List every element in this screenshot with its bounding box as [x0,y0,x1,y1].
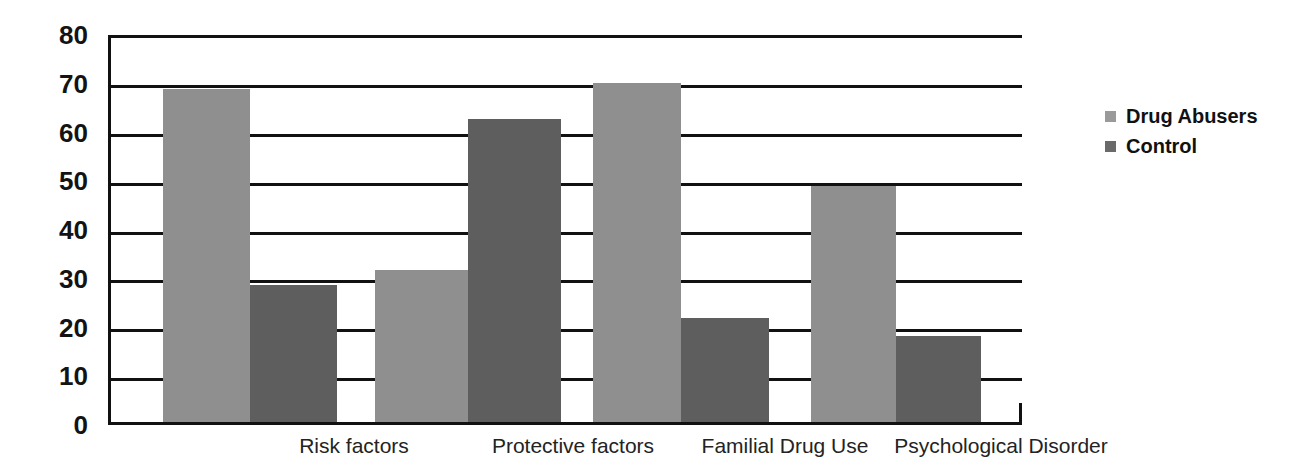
bar-psychological-disorder-drug-abusers [811,186,896,422]
legend-item-control: Control [1105,133,1258,160]
y-tick-label-50: 50 [18,168,88,194]
legend-swatch-drug-abusers-icon [1105,111,1116,122]
bar-risk-factors-drug-abusers [163,89,250,422]
y-tick-label-80: 80 [18,22,88,48]
plot-area [108,35,1022,425]
y-tick-label-30: 30 [18,266,88,292]
gridline-70 [111,85,1022,88]
bar-psychological-disorder-control [896,336,981,422]
bar-familial-drug-use-control [681,318,769,422]
legend-label-drug-abusers: Drug Abusers [1126,105,1258,128]
legend: Drug Abusers Control [1105,103,1258,163]
bar-risk-factors-control [250,285,337,422]
legend-item-drug-abusers: Drug Abusers [1105,103,1258,130]
legend-label-control: Control [1126,135,1197,158]
y-tick-label-60: 60 [18,120,88,146]
y-tick-label-0: 0 [18,412,88,438]
bar-chart-figure: 01020304050607080 Risk factorsProtective… [0,0,1294,476]
y-tick-label-10: 10 [18,363,88,389]
y-tick-label-40: 40 [18,217,88,243]
bar-protective-factors-control [468,119,561,422]
y-tick-label-70: 70 [18,71,88,97]
bar-protective-factors-drug-abusers [375,270,468,422]
y-tick-label-20: 20 [18,315,88,341]
x-label-psychological-disorder: Psychological Disorder [841,434,1161,457]
legend-swatch-control-icon [1105,141,1116,152]
bar-familial-drug-use-drug-abusers [593,83,681,422]
x-axis-right-end-tick [1019,403,1022,425]
